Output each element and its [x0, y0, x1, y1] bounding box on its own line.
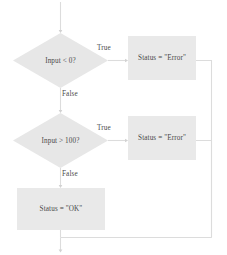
decision-input-negative-shape[interactable]: [13, 33, 108, 88]
flowchart-canvas: Input < 0? Status = "Error" Input > 100?…: [0, 0, 227, 255]
process-error-negative-shape[interactable]: [128, 36, 196, 80]
process-error-over-100-shape[interactable]: [128, 116, 196, 160]
process-status-ok-shape[interactable]: [17, 188, 105, 230]
connector-return-2: [196, 141, 212, 238]
edge-label-true-1: True: [97, 44, 111, 52]
edge-label-false-2: False: [62, 170, 78, 178]
decision-input-over-100-shape[interactable]: [13, 113, 108, 168]
flowchart-graphics: [0, 0, 227, 255]
edge-label-true-2: True: [97, 124, 111, 132]
connector-return-1: [196, 61, 212, 238]
edge-label-false-1: False: [62, 90, 78, 98]
